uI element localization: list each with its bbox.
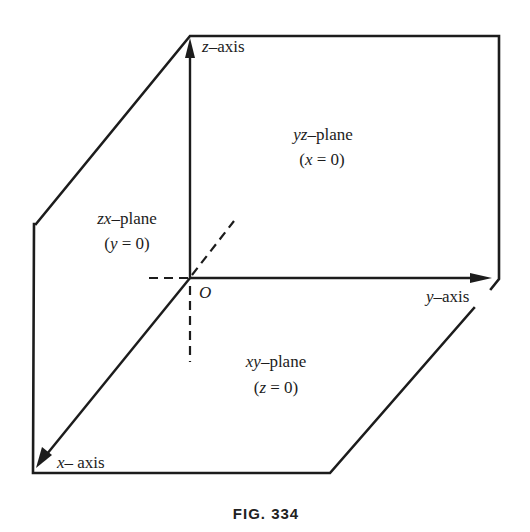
zx-plane-label: zx–plane <box>97 210 157 227</box>
yz-plane-label: yz–plane <box>293 126 353 143</box>
origin-label: O <box>199 284 211 301</box>
zx-plane-equation: (y = 0) <box>104 235 149 252</box>
y-axis-label: y–axis <box>426 288 469 305</box>
xy-plane-equation: (z = 0) <box>254 379 299 396</box>
x-axis-label: x– axis <box>57 454 105 471</box>
yz-plane-equation: (x = 0) <box>299 151 344 168</box>
z-axis-label: z–axis <box>202 38 245 55</box>
x-axis-line <box>47 278 190 454</box>
figure-caption: FIG. 334 <box>233 505 299 522</box>
y-axis-arrowhead <box>470 273 492 283</box>
negative-x-axis-dashed <box>192 221 234 275</box>
box-outline-lower <box>33 224 474 473</box>
xy-plane-label: xy–plane <box>246 353 306 370</box>
